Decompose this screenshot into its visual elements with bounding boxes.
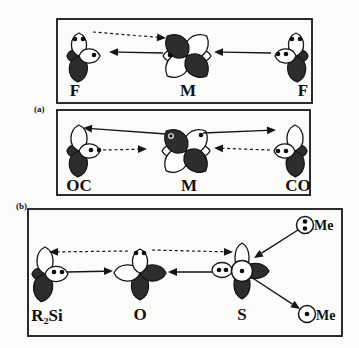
atom-label-m-top: M bbox=[180, 81, 196, 100]
atom-label-f-right: F bbox=[298, 81, 308, 100]
electron-dot bbox=[89, 148, 94, 153]
electron-dot bbox=[97, 148, 102, 153]
panel-b-label: (b) bbox=[16, 201, 27, 211]
panel-a-label: (a) bbox=[34, 104, 45, 114]
me-label-bottom: Me bbox=[316, 308, 335, 323]
electron-dot bbox=[276, 52, 281, 57]
s-orbital-circle bbox=[297, 217, 314, 234]
radical-me-bottom bbox=[299, 306, 316, 323]
electron-dot bbox=[276, 149, 281, 154]
atom-label-s: S bbox=[237, 305, 246, 324]
electron-dot bbox=[81, 37, 86, 42]
electron-dot bbox=[168, 53, 173, 58]
solid-arrow-shaft bbox=[118, 52, 163, 53]
electron-dot bbox=[217, 268, 222, 273]
electron-dot bbox=[52, 270, 57, 275]
atom-label-m-bottom: M bbox=[181, 176, 197, 195]
solid-arrow-shaft bbox=[67, 271, 104, 272]
electron-dot bbox=[169, 134, 174, 139]
electron-dot bbox=[142, 251, 147, 256]
lone-pair-me-top bbox=[297, 217, 314, 234]
orbital-interaction-figure: (a)(b)FMFOCMCOR₂SiOSMeMe bbox=[0, 0, 359, 348]
electron-dot bbox=[134, 251, 139, 256]
electron-dot bbox=[303, 226, 308, 231]
lone-pair-lobe bbox=[212, 263, 232, 278]
electron-dot bbox=[240, 269, 245, 274]
electron-dot bbox=[60, 270, 65, 275]
atom-label-oc: OC bbox=[66, 176, 92, 195]
electron-dot bbox=[303, 219, 308, 224]
solid-arrow-shaft bbox=[223, 52, 271, 53]
atom-label-co: CO bbox=[285, 176, 311, 195]
electron-dot bbox=[224, 268, 229, 273]
orbital-lobe-empty bbox=[45, 266, 68, 281]
atom-label-r2si: R₂Si bbox=[31, 306, 63, 325]
electron-dot bbox=[199, 133, 204, 138]
atom-label-o: O bbox=[133, 305, 146, 324]
electron-dot bbox=[305, 312, 310, 317]
electron-dot bbox=[73, 37, 78, 42]
electron-dot bbox=[290, 37, 295, 42]
electron-dot bbox=[284, 149, 289, 154]
figure-canvas: (a)(b)FMFOCMCOR₂SiOSMeMe bbox=[0, 0, 359, 348]
me-label-top: Me bbox=[314, 218, 333, 233]
electron-dot bbox=[298, 37, 303, 42]
electron-dot bbox=[284, 52, 289, 57]
electron-dot bbox=[92, 53, 97, 58]
orbital-lobe-empty bbox=[79, 49, 100, 63]
atom-label-f-left: F bbox=[70, 81, 80, 100]
